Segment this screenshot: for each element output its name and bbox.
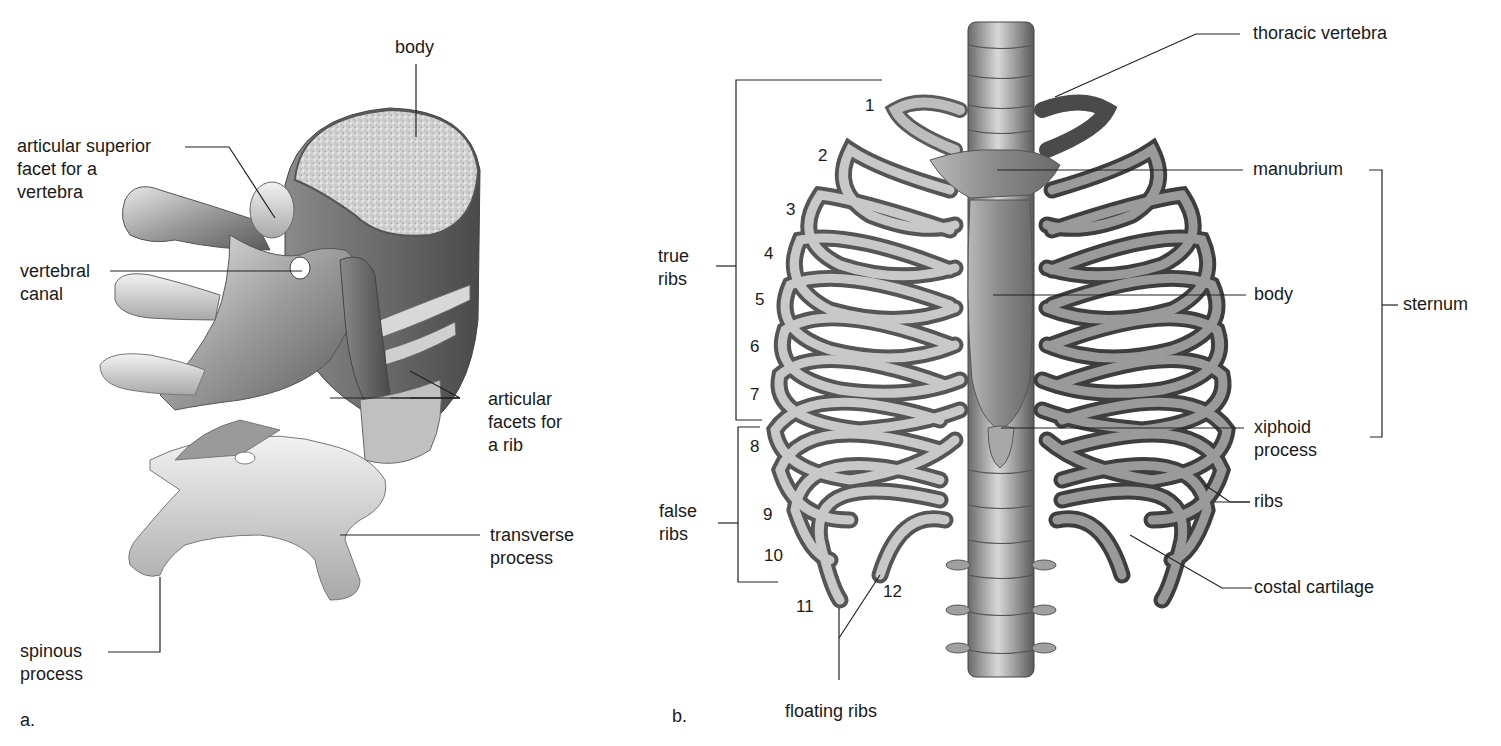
label-body: body: [395, 36, 434, 59]
label-transverse-process: transverse process: [490, 524, 574, 570]
label-articular-facets-for-rib: articular facets for a rib: [488, 388, 562, 457]
rib-number-5: 5: [755, 290, 764, 310]
panel-letter-b: b.: [672, 706, 687, 727]
label-spinous-process: spinous process: [20, 640, 83, 686]
ribs-left: [775, 103, 960, 601]
vertebra-illustration: [0, 0, 640, 746]
label-ribs: ribs: [1254, 490, 1283, 513]
label-manubrium: manubrium: [1253, 158, 1343, 181]
label-floating-ribs: floating ribs: [785, 700, 877, 723]
label-false-ribs: false ribs: [659, 500, 697, 546]
rib-cage-illustration: [640, 0, 1501, 746]
rib-number-6: 6: [750, 337, 759, 357]
label-true-ribs: true ribs: [658, 245, 689, 291]
rib-number-10: 10: [764, 546, 783, 566]
label-xiphoid-process: xiphoid process: [1254, 416, 1317, 462]
rib-number-12: 12: [883, 582, 902, 602]
label-costal-cartilage: costal cartilage: [1254, 576, 1374, 599]
label-sternum: sternum: [1403, 293, 1468, 316]
rib-number-4: 4: [764, 244, 773, 264]
label-vertebral-canal: vertebral canal: [20, 260, 90, 306]
rib-number-3: 3: [786, 200, 795, 220]
label-thoracic-vertebra: thoracic vertebra: [1253, 22, 1387, 45]
rib-number-9: 9: [763, 505, 772, 525]
rib-number-7: 7: [750, 385, 759, 405]
panel-a-thoracic-vertebra: body articular superior facet for a vert…: [0, 0, 640, 746]
label-articular-superior-facet: articular superior facet for a vertebra: [17, 135, 151, 204]
rib-number-8: 8: [750, 437, 759, 457]
panel-b-thoracic-cage: 1 2 3 4 5 6 7 8 9 10 11 12 true ribs fal…: [640, 0, 1501, 746]
rib-number-2: 2: [818, 146, 827, 166]
rib-number-11: 11: [796, 597, 814, 617]
label-sternum-body: body: [1254, 283, 1293, 306]
ribs-right: [1042, 103, 1227, 601]
rib-number-1: 1: [865, 96, 874, 116]
panel-letter-a: a.: [20, 710, 35, 731]
